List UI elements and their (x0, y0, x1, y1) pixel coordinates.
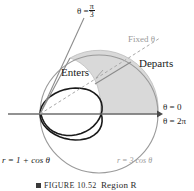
label-theta-pi-over-3: θ =π3 (77, 4, 95, 20)
label-theta-pi3-denominator: 3 (89, 11, 95, 19)
label-theta-two-pi: θ = 2π (163, 117, 186, 126)
caption-figure-number: FIGURE 10.52 (44, 181, 97, 190)
label-enters: Enters (61, 67, 89, 78)
label-cardioid-equation: r = 1 + cos θ (2, 156, 50, 165)
caption-bullet-icon (36, 183, 41, 188)
figure-caption: FIGURE 10.52 Region R (36, 180, 137, 190)
cardioid-curve (40, 88, 102, 136)
label-theta-zero: θ = 0 (163, 103, 181, 112)
caption-region-text: Region R (101, 180, 137, 190)
label-theta-pi3-lead: θ = (77, 6, 89, 16)
label-circle-equation: r = 3 cos θ (117, 157, 152, 165)
label-theta-pi3-numerator: π (89, 3, 95, 10)
label-fixed-theta: Fixed θ (128, 35, 155, 44)
label-departs: Departs (139, 58, 173, 69)
